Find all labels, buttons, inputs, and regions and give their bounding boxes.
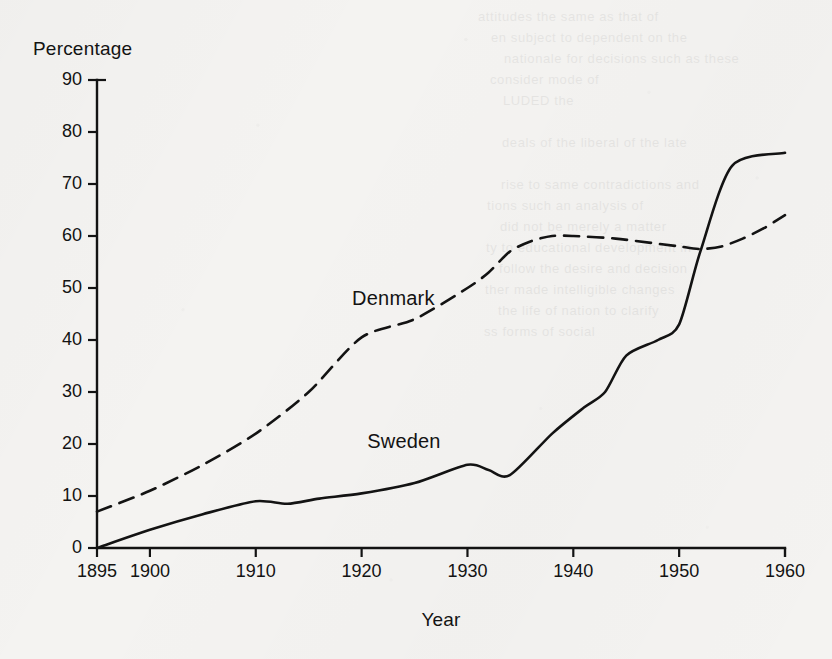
x-tick-label: 1920 bbox=[322, 561, 402, 582]
series-group bbox=[97, 153, 785, 548]
x-tick-label: 1910 bbox=[216, 561, 296, 582]
x-tick-label: 1930 bbox=[427, 561, 507, 582]
y-tick-label: 90 bbox=[26, 69, 82, 90]
y-tick-label: 50 bbox=[26, 277, 82, 298]
y-tick-label: 30 bbox=[26, 381, 82, 402]
y-tick-label: 0 bbox=[26, 537, 82, 558]
series-label-denmark: Denmark bbox=[352, 287, 435, 310]
series-line-denmark bbox=[97, 215, 785, 511]
x-tick-label: 1940 bbox=[533, 561, 613, 582]
y-axis-title: Percentage bbox=[33, 38, 132, 60]
x-axis-title: Year bbox=[421, 609, 460, 631]
y-tick-label: 20 bbox=[26, 433, 82, 454]
y-tick-label: 70 bbox=[26, 173, 82, 194]
x-tick-label: 1950 bbox=[639, 561, 719, 582]
chart-figure: attitudes the same as that ofen subject … bbox=[0, 0, 832, 659]
y-tick-label: 40 bbox=[26, 329, 82, 350]
x-tick-label: 1960 bbox=[745, 561, 825, 582]
series-label-sweden: Sweden bbox=[367, 430, 440, 453]
y-tick-label: 60 bbox=[26, 225, 82, 246]
y-tick-label: 80 bbox=[26, 121, 82, 142]
y-tick-label: 10 bbox=[26, 485, 82, 506]
x-tick-label: 1900 bbox=[110, 561, 190, 582]
series-line-sweden bbox=[97, 153, 785, 548]
